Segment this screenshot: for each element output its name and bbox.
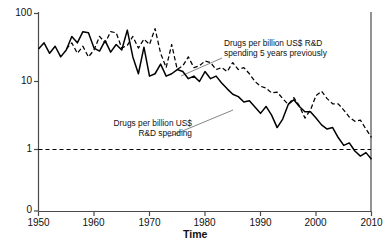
annotation-current: Drugs per billion US$ R&D spending: [42, 118, 192, 138]
y-ticklabel-0: 0: [6, 204, 32, 215]
annotation-current-line1: Drugs per billion US$: [114, 118, 192, 128]
annotation-5yr-line2: spending 5 years previously: [224, 48, 327, 58]
y-axis-ticks: [34, 14, 39, 212]
annotation-5yr-previous: Drugs per billion US$ R&D spending 5 yea…: [224, 38, 366, 58]
x-ticklabel-1960: 1960: [73, 217, 114, 228]
y-ticklabel-1: 1: [6, 143, 32, 154]
leader-line-dashed-series: [181, 58, 222, 76]
y-ticklabel-100: 100: [6, 7, 32, 18]
x-ticklabel-1970: 1970: [129, 217, 170, 228]
x-ticklabel-1950: 1950: [18, 217, 59, 228]
annotation-current-line2: R&D spending: [138, 128, 192, 138]
x-ticklabel-1980: 1980: [184, 217, 225, 228]
y-ticklabel-10: 10: [6, 75, 32, 86]
x-ticklabel-1990: 1990: [240, 217, 281, 228]
x-axis-title: Time: [183, 228, 207, 240]
x-ticklabel-2000: 2000: [295, 217, 336, 228]
x-axis-ticks: [39, 212, 372, 217]
annotation-5yr-line1: Drugs per billion US$ R&D: [224, 38, 322, 48]
x-ticklabel-2010: 2010: [351, 217, 387, 228]
